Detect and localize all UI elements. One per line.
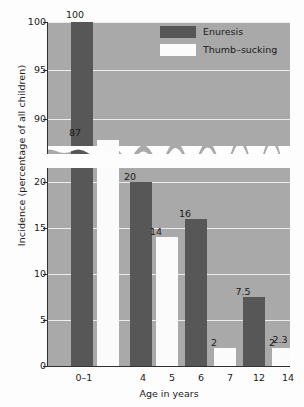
y-axis-line-lower [47,168,48,366]
legend-label-enuresis: Enuresis [203,26,243,37]
bar-thumb-6 [214,348,236,366]
value-label-enuresis-4: 20 [115,171,145,182]
value-label-thumb-6: 2 [199,337,229,348]
value-label-enuresis-5: 16 [170,208,200,219]
bar-thumb-0-1-lower [97,168,119,366]
xtick-label-14: 14 [264,372,304,383]
bar-thumb-12 [272,348,290,366]
value-label-enuresis-0-1: 100 [60,9,90,20]
x-axis-title: Age in years [48,388,290,399]
ytick-label-15: 15 [6,222,46,233]
lower-plot-panel [48,168,290,366]
legend-swatch-enuresis [160,26,196,38]
bar-enuresis-7 [243,297,265,366]
bar-thumb-0-1-upper [97,140,119,154]
value-label-thumb-4: 14 [141,226,171,237]
legend-label-thumb-sucking: Thumb–sucking [203,44,277,55]
ytick-label-95: 95 [6,64,46,75]
y-axis-title: Incidence (percentage of all children) [16,41,27,271]
legend-item-enuresis: Enuresis [160,24,277,39]
bar-enuresis-0-1-lower [71,168,93,366]
ytick-label-100: 100 [6,16,46,27]
chart-legend: Enuresis Thumb–sucking [160,24,277,60]
value-label-enuresis-14: 2.3 [265,334,295,345]
ytick-label-90: 90 [6,113,46,124]
ytick-label-20: 20 [6,176,46,187]
x-axis-line [47,366,290,367]
bar-enuresis-4 [130,182,152,366]
value-label-thumb-0-1: 87 [60,127,90,138]
bar-thumb-4 [156,237,178,366]
value-label-enuresis-7: 7.5 [228,286,258,297]
ytick-label-5: 5 [6,314,46,325]
legend-swatch-thumb-sucking [160,44,196,56]
legend-item-thumb-sucking: Thumb–sucking [160,42,277,57]
ytick-label-10: 10 [6,268,46,279]
bar-chart-figure: Incidence (percentage of all children) 1… [0,0,304,407]
xtick-label-0-1: 0–1 [60,372,108,383]
y-axis-line-upper [47,22,48,154]
ytick-label-0: 0 [6,360,46,371]
